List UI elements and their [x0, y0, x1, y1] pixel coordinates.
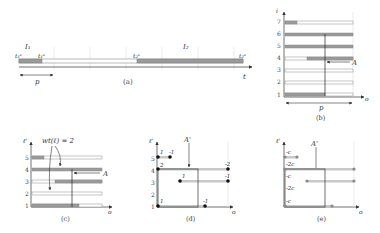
- caption-b: (b): [316, 114, 326, 122]
- interval-1-bar: [19, 59, 42, 63]
- svg-text:5: 5: [25, 154, 29, 161]
- period-label: p: [35, 78, 40, 86]
- x-axis-label: o: [108, 208, 112, 215]
- svg-text:2: 2: [151, 191, 155, 198]
- svg-text:2: 2: [159, 162, 164, 168]
- caption-d: (d): [186, 215, 196, 223]
- interval-2-label: I₂: [182, 43, 189, 51]
- svg-text:-2: -2: [225, 161, 231, 167]
- interval-2-bar: [137, 59, 243, 63]
- y-ticks: 1 2 3 4 5: [25, 154, 29, 209]
- svg-text:-c: -c: [286, 198, 291, 204]
- row-bars: [285, 21, 353, 96]
- caption-e: (e): [317, 215, 326, 223]
- panel-e: ℓ' o A' -c -2c -c -2c -c (e): [276, 137, 363, 223]
- svg-text:1: 1: [160, 198, 164, 204]
- period-label: p: [319, 104, 324, 112]
- grid-lines: [54, 47, 234, 70]
- y-axis-label: ℓ': [149, 137, 153, 144]
- t2-end-label: t₂ᵉ: [239, 52, 247, 59]
- y-axis-label: i: [276, 7, 278, 14]
- figure-canvas: I₁ I₂ t₁ˢ t₁ᵉ t₂ˢ t₂ᵉ t p (a) i o 1 2 3 …: [0, 0, 380, 233]
- edge-bars: [158, 156, 228, 208]
- annotation-a: A: [351, 59, 357, 67]
- svg-text:-1: -1: [225, 173, 230, 179]
- panel-c: ℓ' o 1 2 3 4 5 A wt(ℓ) = 2 (c): [23, 137, 112, 223]
- annotation-a-prime: A': [310, 140, 318, 148]
- svg-text:-2c: -2c: [286, 161, 294, 167]
- t1-end-label: t₁ᵉ: [38, 52, 46, 59]
- svg-text:3: 3: [151, 179, 155, 186]
- caption-c: (c): [61, 215, 70, 223]
- t1-start-label: t₁ˢ: [15, 52, 22, 59]
- weight-label: wt(ℓ) = 2: [42, 137, 74, 145]
- panel-a: I₁ I₂ t₁ˢ t₁ᵉ t₂ˢ t₂ᵉ t p (a): [15, 43, 252, 86]
- svg-text:1: 1: [277, 91, 281, 98]
- svg-text:4: 4: [25, 166, 29, 173]
- svg-text:4: 4: [151, 167, 155, 174]
- svg-text:5: 5: [151, 155, 155, 162]
- svg-text:-2c: -2c: [286, 185, 294, 191]
- panel-b: i o 1 2 3 4 5 6 7: [276, 7, 369, 122]
- caption-a: (a): [123, 78, 133, 86]
- t-axis-label: t: [243, 73, 246, 81]
- t2-start-label: t₂ˢ: [133, 52, 140, 59]
- annotation-a: A: [102, 170, 108, 178]
- x-axis-label: o: [359, 208, 363, 215]
- svg-text:-c: -c: [286, 173, 291, 179]
- svg-text:-c: -c: [286, 149, 291, 155]
- svg-text:3: 3: [277, 66, 281, 73]
- svg-text:1: 1: [151, 203, 155, 210]
- x-axis-label: o: [365, 95, 369, 102]
- svg-text:1: 1: [182, 173, 186, 179]
- svg-text:5: 5: [277, 42, 281, 49]
- svg-text:1: 1: [25, 202, 29, 209]
- x-axis-label: o: [232, 208, 236, 215]
- panel-d: ℓ' o 1 2 3 4 5 A' 1 -1 2 -2 1: [149, 136, 236, 223]
- interval-1-label: I₁: [24, 43, 31, 51]
- region-a-prime: [158, 169, 198, 207]
- svg-text:1: 1: [160, 149, 164, 155]
- row-bars: [32, 156, 102, 207]
- svg-text:-1: -1: [169, 149, 174, 155]
- edge-bars: [285, 156, 355, 208]
- svg-text:2: 2: [25, 190, 29, 197]
- annotation-a-prime: A': [183, 136, 191, 144]
- y-axis-label: ℓ': [23, 137, 27, 144]
- svg-text:7: 7: [277, 18, 281, 25]
- y-axis-label: ℓ': [276, 137, 280, 144]
- svg-text:2: 2: [277, 78, 281, 85]
- svg-text:-1: -1: [203, 198, 208, 204]
- y-ticks: 1 2 3 4 5 6 7: [277, 18, 281, 98]
- svg-text:3: 3: [25, 178, 29, 185]
- svg-text:4: 4: [277, 54, 281, 61]
- svg-text:6: 6: [277, 30, 281, 37]
- y-ticks: 1 2 3 4 5: [151, 155, 155, 210]
